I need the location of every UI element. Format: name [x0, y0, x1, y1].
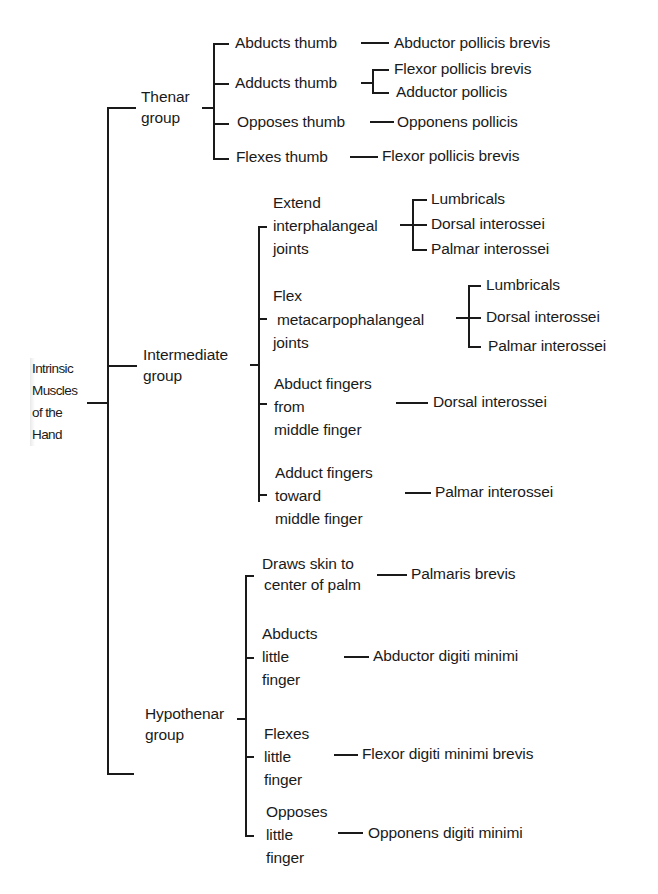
- thenar-group-label: Thenar group: [141, 86, 190, 128]
- thenar-connector: [107, 107, 136, 109]
- link-flexes-little: [334, 754, 358, 756]
- root-node-label: Intrinsic Muscles of the Hand: [30, 358, 77, 446]
- hypothenar-bracket: [245, 575, 247, 837]
- link-flexes-thumb: [350, 156, 378, 158]
- opposes-little-line-2: little: [266, 824, 327, 845]
- muscle-flexor-pollicis-brevis-2: Flexor pollicis brevis: [382, 145, 519, 166]
- extend-line-3: joints: [273, 238, 378, 259]
- muscle-flexor-pollicis-brevis: Flexor pollicis brevis: [394, 58, 531, 79]
- extend-branch-3: [412, 249, 427, 251]
- hypothenar-group-label: Hypothenar group: [145, 703, 224, 745]
- adducts-thumb-bracket: [372, 69, 374, 93]
- intermediate-branch-2: [258, 318, 267, 320]
- action-opposes-thumb: Opposes thumb: [237, 111, 345, 132]
- thenar-branch-4: [213, 158, 229, 160]
- flexes-little-line-2: little: [264, 746, 309, 767]
- thenar-branch-3: [213, 123, 229, 125]
- hypothenar-branch-2: [245, 657, 254, 659]
- muscle-adductor-pollicis: Adductor pollicis: [396, 81, 507, 102]
- action-flexes-thumb: Flexes thumb: [236, 146, 328, 167]
- flex-branch-1: [468, 285, 481, 287]
- flex-line-1: Flex: [273, 285, 424, 306]
- draws-skin-line-2: center of palm: [264, 574, 361, 595]
- extend-branch-1: [412, 199, 427, 201]
- thenar-bracket: [213, 43, 215, 160]
- action-abducts-little-finger: Abducts little finger: [262, 623, 317, 690]
- muscle-palmar-interossei: Palmar interossei: [431, 238, 549, 259]
- hypothenar-branch-3: [245, 756, 254, 758]
- intermediate-connector: [107, 365, 137, 367]
- adduct-fingers-line-3: middle finger: [275, 508, 373, 529]
- hypothenar-line-2: group: [145, 724, 224, 745]
- extend-branch-2: [412, 224, 427, 226]
- muscle-abductor-pollicis-brevis: Abductor pollicis brevis: [394, 32, 550, 53]
- action-flex-metacarpophalangeal: Flex metacarpophalangeal joints: [273, 285, 424, 353]
- muscle-lumbricals: Lumbricals: [431, 188, 505, 209]
- action-flexes-little-finger: Flexes little finger: [264, 723, 309, 790]
- intermediate-group-label: Intermediate group: [143, 344, 228, 386]
- intermediate-branch-4: [258, 494, 267, 496]
- adduct-fingers-line-1: Adduct fingers: [275, 462, 373, 483]
- flex-bracket: [468, 285, 470, 347]
- adducts-branch-1: [372, 69, 389, 71]
- hypothenar-connector: [107, 773, 134, 775]
- abduct-fingers-line-2: from: [274, 396, 372, 417]
- flex-line-2: metacarpophalangeal: [277, 309, 424, 330]
- intermediate-bracket: [258, 226, 260, 502]
- adducts-branch-2: [372, 92, 389, 94]
- muscle-palmaris-brevis: Palmaris brevis: [411, 563, 515, 584]
- intermediate-branch-1: [258, 226, 267, 228]
- adduct-fingers-line-2: toward: [275, 485, 373, 506]
- root-connector: [87, 402, 109, 404]
- link-abducts-thumb: [361, 42, 389, 44]
- muscle-palmar-interossei-3: Palmar interossei: [435, 481, 553, 502]
- action-abducts-thumb: Abducts thumb: [235, 32, 337, 53]
- abduct-fingers-line-3: middle finger: [274, 419, 372, 440]
- opposes-little-line-3: finger: [266, 847, 327, 868]
- draws-skin-line-1: Draws skin to: [262, 553, 361, 574]
- root-line-2: Muscles: [32, 380, 77, 402]
- link-opposes-little: [338, 832, 363, 834]
- link-opposes-thumb: [370, 121, 394, 123]
- thenar-branch-2: [213, 83, 229, 85]
- action-opposes-little-finger: Opposes little finger: [266, 801, 327, 868]
- abducts-little-line-2: little: [262, 646, 317, 667]
- muscle-flexor-digiti-minimi-brevis: Flexor digiti minimi brevis: [362, 743, 533, 764]
- extend-line-2: interphalangeal: [273, 215, 378, 236]
- abduct-fingers-line-1: Abduct fingers: [274, 373, 372, 394]
- hypothenar-branch-1: [245, 575, 254, 577]
- root-line-1: Intrinsic: [32, 358, 77, 380]
- muscle-dorsal-interossei-3: Dorsal interossei: [433, 391, 547, 412]
- hypothenar-branch-4: [245, 835, 254, 837]
- flex-branch-3: [468, 346, 481, 348]
- muscle-dorsal-interossei-2: Dorsal interossei: [486, 306, 600, 327]
- intermediate-line-1: Intermediate: [143, 344, 228, 365]
- extend-line-1: Extend: [273, 192, 378, 213]
- muscle-lumbricals-2: Lumbricals: [486, 274, 560, 295]
- action-adduct-fingers: Adduct fingers toward middle finger: [275, 462, 373, 529]
- root-line-4: Hand: [32, 424, 77, 446]
- abducts-little-line-3: finger: [262, 669, 317, 690]
- muscle-tree-diagram: Intrinsic Muscles of the Hand Thenar gro…: [0, 0, 658, 894]
- intermediate-branch-3: [258, 403, 267, 405]
- hypothenar-line-1: Hypothenar: [145, 703, 224, 724]
- abducts-little-line-1: Abducts: [262, 623, 317, 644]
- muscle-palmar-interossei-2: Palmar interossei: [488, 335, 606, 356]
- muscle-opponens-pollicis: Opponens pollicis: [397, 111, 518, 132]
- action-adducts-thumb: Adducts thumb: [235, 72, 337, 93]
- root-trunk: [107, 107, 109, 774]
- action-extend-interphalangeal: Extend interphalangeal joints: [273, 192, 378, 259]
- thenar-branch-1: [213, 43, 229, 45]
- muscle-opponens-digiti-minimi: Opponens digiti minimi: [368, 822, 523, 843]
- muscle-dorsal-interossei: Dorsal interossei: [431, 213, 545, 234]
- muscle-abductor-digiti-minimi: Abductor digiti minimi: [373, 645, 518, 666]
- action-abduct-fingers: Abduct fingers from middle finger: [274, 373, 372, 440]
- root-line-3: of the: [32, 402, 77, 424]
- thenar-line-1: Thenar: [141, 86, 190, 107]
- link-adduct-fingers: [405, 492, 431, 494]
- action-draws-skin: Draws skin to center of palm: [262, 553, 361, 595]
- opposes-little-line-1: Opposes: [266, 801, 327, 822]
- link-draws-skin: [377, 574, 407, 576]
- thenar-line-2: group: [141, 107, 190, 128]
- intermediate-line-2: group: [143, 365, 228, 386]
